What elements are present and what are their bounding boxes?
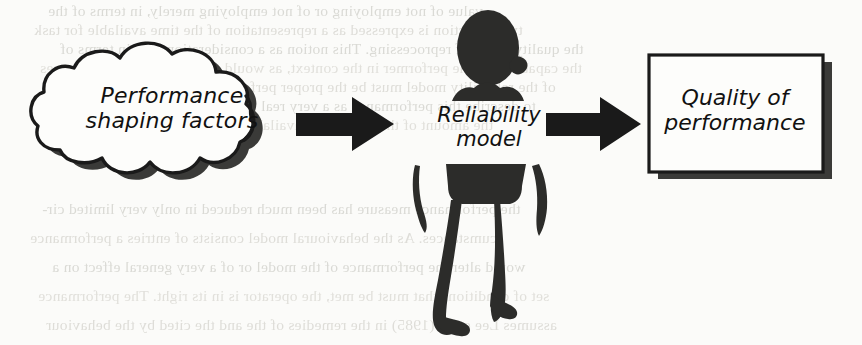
human-figure-silhouette[interactable]: [413, 10, 547, 336]
box-label-line1: Quality of: [652, 86, 818, 111]
scanned-page: value of not employing or of not employi…: [0, 0, 862, 345]
arrow-1: [296, 97, 394, 151]
reliability-model-label: Reliability model: [404, 104, 574, 151]
diagram-artwork: [0, 0, 862, 345]
model-label-line2: model: [404, 128, 574, 152]
quality-box-label: Quality of performance: [652, 86, 818, 135]
box-label-line2: performance: [652, 111, 818, 136]
cloud-label-line2: shaping factors: [60, 109, 284, 134]
cloud-label: Performance shaping factors: [60, 84, 284, 133]
cloud-label-line1: Performance: [60, 84, 284, 109]
model-label-line1: Reliability: [404, 104, 574, 128]
